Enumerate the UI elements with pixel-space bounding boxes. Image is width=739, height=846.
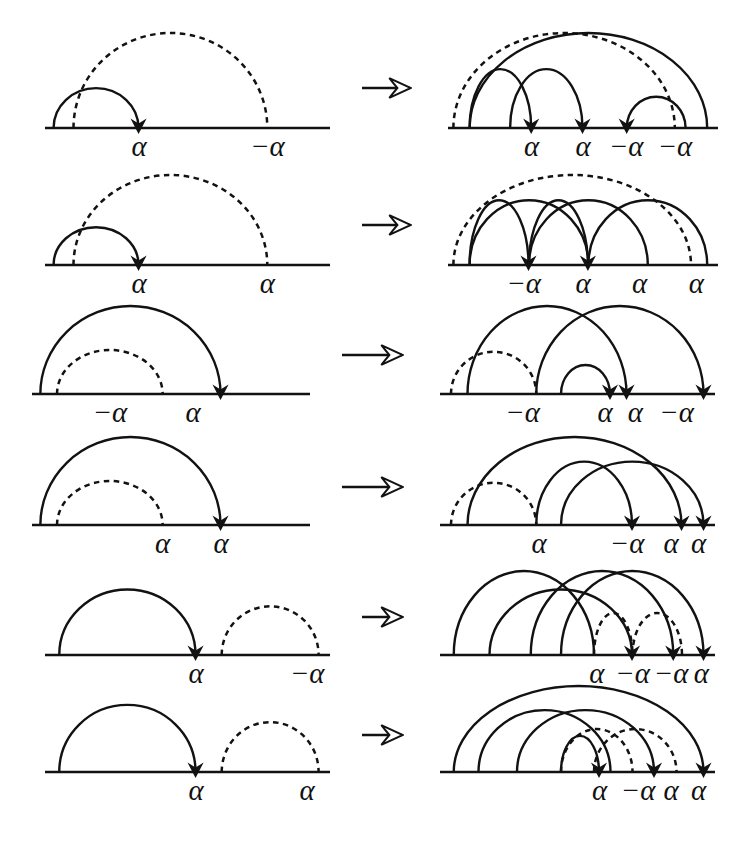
node-label: α — [597, 396, 613, 428]
node-label: α — [691, 527, 707, 559]
node-label: α — [663, 527, 679, 559]
node-label: α — [575, 130, 591, 162]
node-label: −α — [610, 527, 646, 559]
node-label: α — [663, 774, 679, 806]
node-label: α — [131, 267, 147, 299]
node-label: −α — [621, 774, 657, 806]
node-label: α — [575, 267, 591, 299]
node-label: α — [589, 657, 605, 689]
node-label: α — [260, 267, 276, 299]
arc-diagram-figure: α−ααα−α−ααα−αααα−αα−ααα−αααα−αααα−αα−α−α… — [0, 0, 739, 846]
node-label: −α — [657, 130, 693, 162]
node-label: α — [632, 267, 648, 299]
node-label: α — [689, 267, 705, 299]
node-label: α — [524, 130, 540, 162]
node-label: α — [628, 396, 644, 428]
node-label: α — [186, 396, 202, 428]
node-label: α — [213, 527, 229, 559]
node-label: α — [691, 774, 707, 806]
node-label: −α — [505, 396, 541, 428]
node-label: α — [131, 130, 147, 162]
node-label: −α — [250, 130, 286, 162]
node-label: α — [155, 527, 171, 559]
node-label: −α — [506, 267, 542, 299]
node-label: α — [188, 657, 204, 689]
node-label: −α — [92, 396, 128, 428]
node-label: α — [531, 527, 547, 559]
node-label: −α — [615, 657, 651, 689]
node-label: α — [300, 774, 316, 806]
node-label: −α — [290, 657, 326, 689]
node-label: α — [592, 774, 608, 806]
node-label: −α — [609, 130, 645, 162]
node-label: −α — [654, 657, 690, 689]
node-label: α — [694, 657, 710, 689]
node-label: −α — [659, 396, 695, 428]
node-label: α — [188, 774, 204, 806]
